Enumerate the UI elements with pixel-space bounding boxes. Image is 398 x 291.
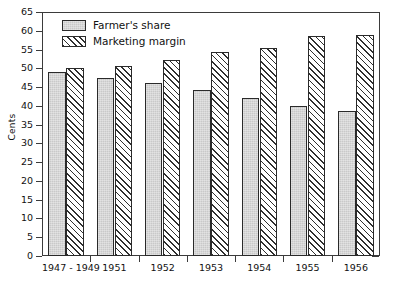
- bar: [356, 35, 374, 256]
- x-tick-mark: [235, 256, 236, 262]
- legend: Farmer's share Marketing margin: [62, 20, 186, 47]
- x-tick-label: 1947 - 1949: [42, 263, 90, 273]
- bar: [193, 90, 211, 256]
- bar: [260, 48, 278, 256]
- x-tick-label: 1954: [235, 263, 283, 273]
- x-tick-label: 1956: [332, 263, 380, 273]
- bar: [66, 68, 84, 256]
- legend-label-farmers-share: Farmer's share: [93, 20, 170, 31]
- bar: [115, 66, 133, 256]
- bar: [211, 52, 229, 256]
- bar: [290, 106, 308, 256]
- bar: [145, 83, 163, 256]
- bar: [308, 36, 326, 256]
- x-tick-label: 1952: [139, 263, 187, 273]
- legend-swatch-hatch-icon: [62, 36, 86, 47]
- x-tick-label: 1951: [90, 263, 138, 273]
- x-tick-mark: [139, 256, 140, 262]
- x-tick-label: 1953: [187, 263, 235, 273]
- x-tick-mark: [283, 256, 284, 262]
- legend-swatch-solid-icon: [62, 20, 86, 31]
- bar: [242, 98, 260, 256]
- x-tick-mark: [187, 256, 188, 262]
- x-tick-label: 1955: [283, 263, 331, 273]
- legend-item-farmers-share: Farmer's share: [62, 20, 186, 31]
- bar: [97, 78, 115, 256]
- x-tick-mark: [332, 256, 333, 262]
- bar: [48, 72, 66, 256]
- bar-chart: Cents 05101520253035404550556065 1947 - …: [0, 0, 398, 291]
- legend-item-marketing-margin: Marketing margin: [62, 36, 186, 47]
- bar: [338, 111, 356, 256]
- legend-label-marketing-margin: Marketing margin: [93, 36, 186, 47]
- bar: [163, 60, 181, 256]
